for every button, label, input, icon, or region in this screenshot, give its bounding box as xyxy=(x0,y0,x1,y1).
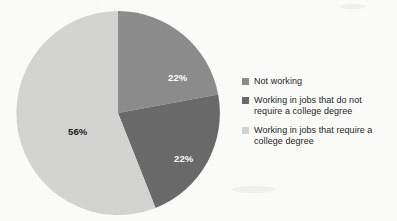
scan-artifact-text: · xyxy=(96,0,306,5)
legend-item-jobs-not-requiring-degree[interactable]: Working in jobs that do not require a co… xyxy=(242,95,392,118)
pie-chart-figure: · 22% 22% 56% Not working Working in job… xyxy=(0,0,397,221)
legend-swatch-icon xyxy=(242,97,249,104)
pie-slice-label-not-working: 22% xyxy=(168,72,187,83)
chart-legend: Not working Working in jobs that do not … xyxy=(242,76,392,155)
legend-item-jobs-requiring-degree[interactable]: Working in jobs that require a college d… xyxy=(242,125,392,148)
legend-item-not-working[interactable]: Not working xyxy=(242,76,392,88)
pie-slice-label-jobs-not-requiring-degree: 22% xyxy=(174,153,193,164)
legend-swatch-icon xyxy=(242,127,249,134)
legend-item-label: Working in jobs that do not require a co… xyxy=(254,95,390,118)
pie-slice-label-jobs-requiring-degree: 56% xyxy=(68,126,87,137)
pie-svg xyxy=(16,11,220,215)
legend-item-label: Not working xyxy=(254,76,302,88)
pie-chart-graphic: 22% 22% 56% xyxy=(16,11,220,215)
legend-item-label: Working in jobs that require a college d… xyxy=(254,125,390,148)
scan-smudge xyxy=(340,4,366,9)
legend-swatch-icon xyxy=(242,78,249,85)
scan-smudge xyxy=(232,186,276,193)
